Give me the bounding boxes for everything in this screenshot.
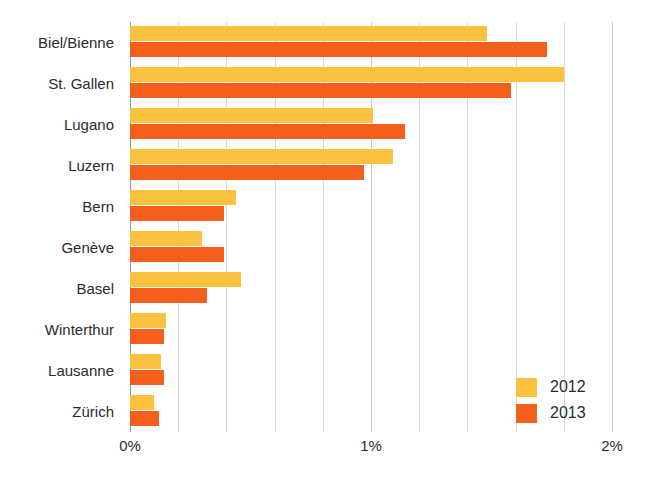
bar-st-gallen-2013: [130, 83, 511, 98]
chart-legend: 20122013: [516, 374, 612, 428]
y-axis-category-labels: Biel/BienneSt. GallenLuganoLuzernBernGen…: [0, 22, 122, 432]
bar-lugano-2012: [130, 108, 373, 123]
y-axis-label-biel-bienne: Biel/Bienne: [0, 22, 122, 63]
bar-gen-ve-2012: [130, 231, 202, 246]
bar-z-rich-2013: [130, 411, 159, 426]
bar-lugano-2013: [130, 124, 405, 139]
bar-biel-bienne-2012: [130, 26, 487, 41]
bar-st-gallen-2012: [130, 67, 564, 82]
bar-bern-2012: [130, 190, 236, 205]
y-axis-label-bern: Bern: [0, 186, 122, 227]
x-axis-tick-0pct: 0%: [119, 437, 141, 454]
bar-group: [130, 309, 612, 350]
y-axis-label-winterthur: Winterthur: [0, 309, 122, 350]
bar-group: [130, 22, 612, 63]
bar-biel-bienne-2013: [130, 42, 547, 57]
bar-z-rich-2012: [130, 395, 154, 410]
bar-chart: Biel/BienneSt. GallenLuganoLuzernBernGen…: [0, 0, 647, 487]
x-axis-tick-2pct: 2%: [601, 437, 623, 454]
bar-group: [130, 186, 612, 227]
bar-winterthur-2013: [130, 329, 164, 344]
bar-group: [130, 104, 612, 145]
bar-basel-2013: [130, 288, 207, 303]
bar-gen-ve-2013: [130, 247, 224, 262]
y-axis-label-lausanne: Lausanne: [0, 350, 122, 391]
bar-group: [130, 145, 612, 186]
plot-area: [130, 22, 612, 432]
y-axis-label-st-gallen: St. Gallen: [0, 63, 122, 104]
bar-group: [130, 227, 612, 268]
y-axis-label-lugano: Lugano: [0, 104, 122, 145]
y-axis-label-gen-ve: Genève: [0, 227, 122, 268]
bar-luzern-2013: [130, 165, 364, 180]
y-axis-label-basel: Basel: [0, 268, 122, 309]
y-axis-label-z-rich: Zürich: [0, 391, 122, 432]
bar-lausanne-2012: [130, 354, 161, 369]
legend-label: 2013: [550, 405, 586, 421]
gridline: [612, 22, 613, 432]
x-axis-tick-labels: 0%1%2%: [0, 437, 647, 467]
bar-basel-2012: [130, 272, 241, 287]
bar-group: [130, 63, 612, 104]
bar-bern-2013: [130, 206, 224, 221]
y-axis-label-luzern: Luzern: [0, 145, 122, 186]
legend-swatch-icon: [516, 378, 537, 397]
bar-lausanne-2013: [130, 370, 164, 385]
bar-rows: [130, 22, 612, 432]
legend-item-2012[interactable]: 2012: [516, 374, 612, 400]
bar-group: [130, 268, 612, 309]
legend-label: 2012: [550, 379, 586, 395]
bar-winterthur-2012: [130, 313, 166, 328]
x-axis-tick-1pct: 1%: [360, 437, 382, 454]
legend-swatch-icon: [516, 404, 537, 423]
bar-luzern-2012: [130, 149, 393, 164]
legend-item-2013[interactable]: 2013: [516, 400, 612, 426]
